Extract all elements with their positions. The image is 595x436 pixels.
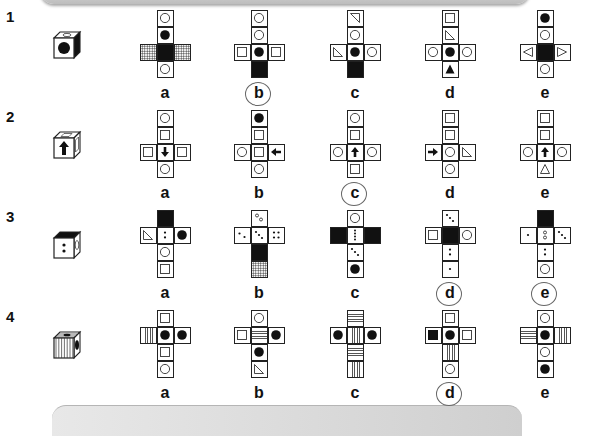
net-face-square <box>347 127 364 144</box>
option-label-a[interactable]: a <box>155 284 175 302</box>
cube-net-option-a[interactable] <box>140 110 191 178</box>
option-label-c[interactable]: c <box>345 384 365 402</box>
option-label-a[interactable]: a <box>155 184 175 202</box>
net-face-tri-bl <box>140 227 157 244</box>
net-face-black <box>157 44 174 61</box>
cube-net-option-d[interactable] <box>425 310 476 378</box>
net-face-one-dot <box>520 227 537 244</box>
net-face-dot <box>157 327 174 344</box>
net-face-two-open-dots-vertical <box>537 227 554 244</box>
net-face-vstripes <box>347 361 364 378</box>
net-face-dot <box>330 327 347 344</box>
net-face-circle <box>442 144 459 161</box>
net-face-dot <box>442 44 459 61</box>
net-face-circle <box>347 110 364 127</box>
net-face-tri-bl <box>442 27 459 44</box>
cube-net-option-a[interactable] <box>140 210 191 278</box>
net-face-tri-up-black <box>442 61 459 78</box>
cube-net-option-a[interactable] <box>140 10 191 78</box>
net-face-square <box>442 10 459 27</box>
cube-net-option-b[interactable] <box>234 210 285 278</box>
net-face-hatch <box>140 44 157 61</box>
net-face-two-open-dots <box>251 210 268 227</box>
net-face-circle <box>459 227 476 244</box>
net-face-two-dots-vertical <box>442 244 459 261</box>
option-label-e[interactable]: e <box>535 384 555 402</box>
net-face-three-dots-diag <box>442 210 459 227</box>
net-face-square <box>537 127 554 144</box>
option-label-c[interactable]: c <box>345 284 365 302</box>
net-face-square <box>251 144 268 161</box>
option-label-b[interactable]: b <box>249 384 269 402</box>
option-label-d[interactable]: d <box>440 84 460 102</box>
net-face-two-dots-vertical <box>537 244 554 261</box>
net-face-dot <box>442 327 459 344</box>
net-face-tri-left <box>520 44 537 61</box>
option-label-b[interactable]: b <box>249 284 269 302</box>
net-face-black <box>537 210 554 227</box>
net-face-circle <box>234 144 251 161</box>
handwritten-circle-mark <box>531 282 557 306</box>
cube-net-option-b[interactable] <box>234 10 285 78</box>
question-number: 4 <box>6 308 14 325</box>
net-face-circle <box>251 161 268 178</box>
net-face-hstripes <box>347 344 364 361</box>
net-face-dot <box>251 344 268 361</box>
bottom-banner <box>52 405 522 436</box>
cube-net-option-c[interactable] <box>330 10 381 78</box>
net-face-square <box>174 144 191 161</box>
handwritten-circle-mark <box>341 182 367 206</box>
net-face-dot <box>537 10 554 27</box>
net-face-hstripes <box>251 327 268 344</box>
net-face-four-dots-vertical <box>347 227 364 244</box>
cube-net-option-d[interactable] <box>425 210 476 278</box>
cube-net-option-e[interactable] <box>520 110 571 178</box>
reference-cube-icon <box>50 330 84 360</box>
net-face-black <box>347 61 364 78</box>
cube-net-option-e[interactable] <box>520 10 571 78</box>
option-label-e[interactable]: e <box>535 184 555 202</box>
cube-net-option-c[interactable] <box>330 110 381 178</box>
cube-net-option-b[interactable] <box>234 110 285 178</box>
cube-net-option-e[interactable] <box>520 310 571 378</box>
option-label-a[interactable]: a <box>155 84 175 102</box>
reference-cube-icon <box>50 30 84 60</box>
cube-net-option-c[interactable] <box>330 210 381 278</box>
handwritten-circle-mark <box>245 82 271 106</box>
net-face-hatch <box>174 44 191 61</box>
net-face-tri-tr <box>347 10 364 27</box>
option-label-c[interactable]: c <box>345 84 365 102</box>
net-face-circle <box>442 361 459 378</box>
cube-net-option-e[interactable] <box>520 210 571 278</box>
net-face-square <box>425 227 442 244</box>
net-face-square <box>234 327 251 344</box>
net-face-circle <box>330 144 347 161</box>
option-label-b[interactable]: b <box>249 184 269 202</box>
net-face-black <box>157 210 174 227</box>
net-face-arrow-down <box>157 144 174 161</box>
cube-net-option-c[interactable] <box>330 310 381 378</box>
net-face-vstripes <box>442 344 459 361</box>
net-face-square <box>140 144 157 161</box>
option-label-d[interactable]: d <box>440 184 460 202</box>
cube-net-option-a[interactable] <box>140 310 191 378</box>
cube-net-option-b[interactable] <box>234 310 285 378</box>
net-face-one-dot <box>442 261 459 278</box>
net-face-square <box>157 261 174 278</box>
option-label-e[interactable]: e <box>535 84 555 102</box>
net-face-square <box>442 110 459 127</box>
cube-net-option-d[interactable] <box>425 10 476 78</box>
cube-net-option-d[interactable] <box>425 110 476 178</box>
net-face-circle <box>537 261 554 278</box>
net-face-circle <box>364 144 381 161</box>
net-face-square <box>347 161 364 178</box>
net-face-square <box>234 44 251 61</box>
net-face-dot <box>347 44 364 61</box>
top-banner <box>40 0 530 4</box>
net-face-circle <box>537 344 554 361</box>
option-label-a[interactable]: a <box>155 384 175 402</box>
net-face-three-dots-diag <box>347 244 364 261</box>
net-face-arrow-right <box>425 144 442 161</box>
net-face-circle <box>251 10 268 27</box>
net-face-four-dots <box>268 227 285 244</box>
